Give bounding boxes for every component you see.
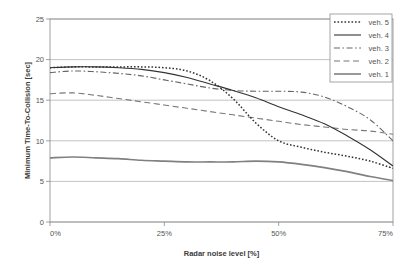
legend-label-veh-4[interactable]: veh. 4 <box>369 31 389 40</box>
x-axis-title: Radar noise level [%] <box>184 249 260 258</box>
line-chart: 0510152025 0%25%50%75% Radar noise level… <box>0 0 414 267</box>
y-axis-ticks: 0510152025 <box>36 15 50 227</box>
legend-label-veh-2[interactable]: veh. 2 <box>369 57 389 66</box>
series-line-veh-1 <box>50 157 393 181</box>
y-tick-label: 0 <box>40 218 44 227</box>
x-tick-label: 25% <box>157 229 172 238</box>
x-axis-ticks: 0%25%50%75% <box>50 222 393 238</box>
legend-label-veh-1[interactable]: veh. 1 <box>369 70 389 79</box>
y-tick-label: 15 <box>36 96 44 105</box>
legend-label-veh-5[interactable]: veh. 5 <box>369 18 389 27</box>
y-tick-label: 10 <box>36 137 44 146</box>
series-line-veh-2 <box>50 93 393 134</box>
legend-label-veh-3[interactable]: veh. 3 <box>369 44 389 53</box>
x-tick-label: 75% <box>378 229 393 238</box>
y-tick-label: 20 <box>36 55 44 64</box>
y-tick-label: 25 <box>36 15 44 24</box>
chart-figure: 0510152025 0%25%50%75% Radar noise level… <box>0 0 414 267</box>
y-axis-title: Minimum Time-To-Collision [sec] <box>23 61 32 179</box>
x-tick-label: 50% <box>271 229 286 238</box>
x-tick-label: 0% <box>50 229 61 238</box>
legend: veh. 5veh. 4veh. 3veh. 2veh. 1 <box>330 14 392 82</box>
series-layer <box>50 67 393 181</box>
y-tick-label: 5 <box>40 177 44 186</box>
